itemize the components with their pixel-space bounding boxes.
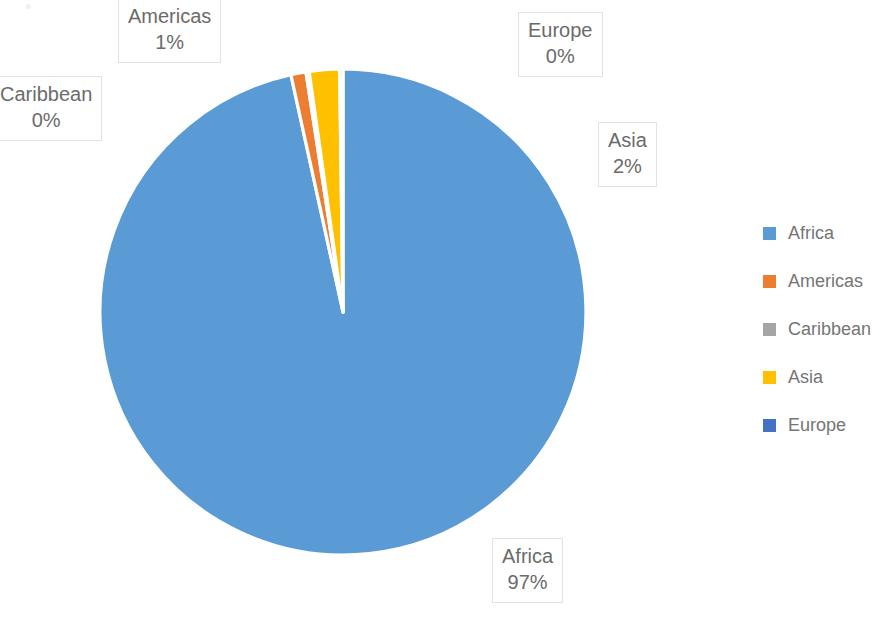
chart-legend: AfricaAmericasCaribbeanAsiaEurope (763, 209, 885, 449)
legend-label-americas: Americas (788, 272, 863, 290)
data-label-asia: Asia 2% (598, 122, 657, 187)
data-label-europe-value: 0% (528, 44, 593, 70)
pie-slice-group (100, 69, 586, 555)
legend-label-asia: Asia (788, 368, 823, 386)
pie-chart-figure: Americas 1% Caribbean 0% Europe 0% Asia … (0, 0, 885, 620)
data-label-americas-value: 1% (128, 30, 211, 56)
legend-swatch-caribbean (763, 323, 776, 336)
data-label-americas-name: Americas (128, 5, 211, 27)
legend-swatch-africa (763, 227, 776, 240)
data-label-africa-value: 97% (502, 570, 553, 596)
data-label-asia-name: Asia (608, 129, 647, 151)
legend-swatch-asia (763, 371, 776, 384)
legend-item-americas[interactable]: Americas (763, 257, 885, 305)
data-label-africa: Africa 97% (492, 538, 563, 603)
legend-item-asia[interactable]: Asia (763, 353, 885, 401)
legend-item-caribbean[interactable]: Caribbean (763, 305, 885, 353)
legend-label-europe: Europe (788, 416, 846, 434)
data-label-caribbean-value: 0% (0, 108, 92, 134)
data-label-europe: Europe 0% (518, 12, 603, 77)
scan-artifact-speck (26, 4, 31, 9)
data-label-americas: Americas 1% (118, 0, 221, 63)
data-label-caribbean-name: Caribbean (0, 83, 92, 105)
legend-swatch-europe (763, 419, 776, 432)
legend-item-africa[interactable]: Africa (763, 209, 885, 257)
legend-swatch-americas (763, 275, 776, 288)
pie-plot-area (98, 67, 588, 557)
pie-svg (98, 67, 588, 557)
data-label-caribbean: Caribbean 0% (0, 76, 102, 141)
legend-item-europe[interactable]: Europe (763, 401, 885, 449)
legend-label-caribbean: Caribbean (788, 320, 871, 338)
legend-label-africa: Africa (788, 224, 834, 242)
data-label-europe-name: Europe (528, 19, 593, 41)
data-label-africa-name: Africa (502, 545, 553, 567)
data-label-asia-value: 2% (608, 154, 647, 180)
